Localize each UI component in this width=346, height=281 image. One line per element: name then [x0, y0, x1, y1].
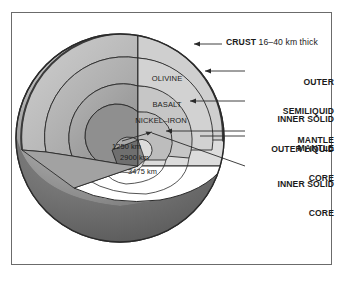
interior-label-nickel-iron: NICKEL–IRON: [130, 117, 192, 126]
interior-label-olivine-basalt-line1: OLIVINE: [141, 75, 193, 84]
callout-outer-semiliquid-mantle-line1: OUTER: [248, 78, 334, 88]
depth-label-3475: 3475 km: [128, 168, 157, 176]
interior-label-olivine-basalt-line2: BASALT: [141, 101, 193, 110]
callout-crust: CRUST 16–40 km thick: [226, 38, 318, 48]
callout-crust-keyword: CRUST: [226, 37, 256, 47]
callout-outer-liquid-core-line1: OUTER LIQUID: [248, 145, 334, 155]
diagram-stage: CRUST 16–40 km thick OUTER SEMILIQUID MA…: [0, 0, 346, 281]
callout-inner-solid-core-line1: INNER SOLID: [248, 180, 334, 190]
callout-inner-solid-core-line2: CORE: [248, 209, 334, 219]
callout-inner-solid-core: INNER SOLID CORE: [248, 161, 334, 238]
callout-inner-solid-mantle-line1: INNER SOLID: [248, 115, 334, 125]
callout-crust-detail: 16–40 km thick: [256, 37, 318, 47]
depth-label-1250: 1250 km: [112, 143, 141, 151]
arrowhead-crust: [194, 42, 200, 47]
depth-label-2900: 2900 km: [120, 154, 149, 162]
arrowhead-outer-semiliquid-mantle: [205, 69, 211, 74]
